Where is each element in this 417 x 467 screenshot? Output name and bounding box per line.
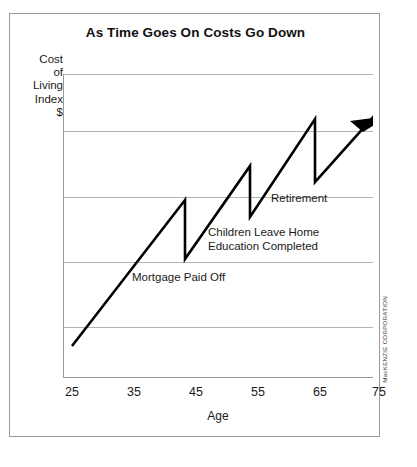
- annotation-line: Education Completed: [208, 240, 319, 254]
- x-tick-label: 75: [372, 385, 386, 399]
- annotation-mortgage-paid-off: Mortgage Paid Off: [132, 271, 225, 285]
- x-tick-label: 55: [251, 385, 265, 399]
- arrowhead: [350, 116, 373, 132]
- chart-plot-svg: [63, 60, 373, 378]
- y-axis-title-line: of: [20, 66, 63, 79]
- x-axis-tick-labels: 25 35 45 55 65 75: [63, 385, 373, 403]
- y-axis-title: Cost of Living Index $: [20, 53, 63, 119]
- chart-frame: As Time Goes On Costs Go Down Cost of Li…: [9, 13, 380, 437]
- y-axis-title-line: $: [20, 106, 63, 119]
- y-axis-title-line: Cost: [20, 53, 63, 66]
- annotation-retirement: Retirement: [271, 192, 327, 206]
- x-tick-label: 25: [65, 385, 79, 399]
- x-tick-label: 65: [313, 385, 327, 399]
- credit-text: MacKENZIE CORPORATION: [381, 296, 388, 383]
- annotation-children-leave-home: Children Leave Home Education Completed: [208, 226, 319, 253]
- x-tick-label: 45: [189, 385, 203, 399]
- chart-title: As Time Goes On Costs Go Down: [10, 25, 381, 40]
- y-axis-title-line: Living: [20, 79, 63, 92]
- x-axis-title: Age: [63, 409, 373, 423]
- x-tick-label: 35: [127, 385, 141, 399]
- y-axis-title-line: Index: [20, 93, 63, 106]
- plot-area: [63, 60, 373, 378]
- annotation-line: Children Leave Home: [208, 226, 319, 240]
